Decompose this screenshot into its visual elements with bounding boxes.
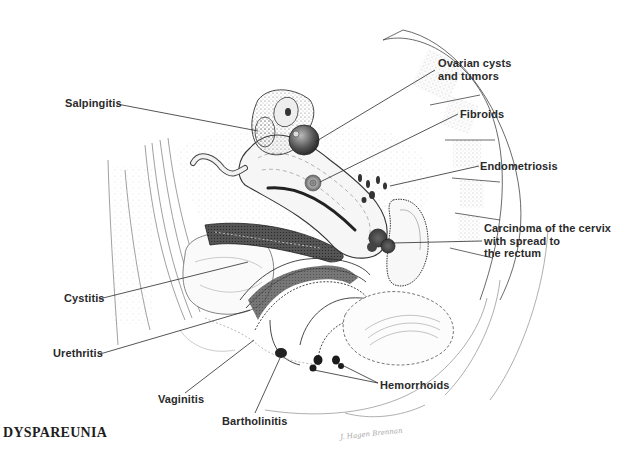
ovarian-cyst xyxy=(289,125,319,155)
figure-title: DYSPAREUNIA xyxy=(3,425,107,441)
label-carcinoma-line2: with spread to xyxy=(484,235,611,248)
label-endometriosis: Endometriosis xyxy=(480,160,558,173)
label-carcinoma-cervix: Carcinoma of the cervix with spread to t… xyxy=(484,222,611,260)
salpingitis-site xyxy=(255,117,275,147)
vestibule xyxy=(205,318,320,365)
leader-hemorrhoids-2 xyxy=(340,364,378,383)
label-bartholinitis: Bartholinitis xyxy=(222,415,287,428)
label-ovarian-line2: and tumors xyxy=(438,70,511,83)
label-hemorrhoids: Hemorrhoids xyxy=(380,379,450,392)
bartholin-gland xyxy=(275,348,287,358)
label-carcinoma-line1: Carcinoma of the cervix xyxy=(484,222,611,235)
dyspareunia-figure: Salpingitis Ovarian cysts and tumors Fib… xyxy=(0,0,627,458)
hemorrhoids xyxy=(310,355,345,372)
label-cystitis: Cystitis xyxy=(64,292,105,305)
fibroid xyxy=(305,175,321,191)
label-ovarian-cysts: Ovarian cysts and tumors xyxy=(438,57,511,82)
leader-bartholinitis xyxy=(255,358,280,413)
label-ovarian-line1: Ovarian cysts xyxy=(438,57,511,70)
label-urethritis: Urethritis xyxy=(53,347,103,360)
label-carcinoma-line3: the rectum xyxy=(484,247,611,260)
leader-hemorrhoids-1 xyxy=(314,370,378,383)
leader-vaginitis xyxy=(185,340,254,393)
abdominal-fat-stipple xyxy=(112,165,152,325)
label-salpingitis: Salpingitis xyxy=(65,97,122,110)
label-vaginitis: Vaginitis xyxy=(158,393,204,406)
label-fibroids: Fibroids xyxy=(460,108,504,121)
leader-salpingitis xyxy=(117,104,258,131)
